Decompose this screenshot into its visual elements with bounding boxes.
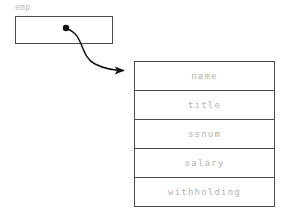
employee-record: name title ssnum salary withholding — [134, 61, 275, 207]
record-field-name: name — [135, 62, 274, 91]
record-field-withholding: withholding — [135, 178, 274, 207]
pointer-variable-box — [15, 16, 113, 44]
diagram-canvas: emp name title ssnum salary withholding — [0, 0, 289, 214]
pointer-variable-label: emp — [15, 2, 30, 14]
record-field-ssnum: ssnum — [135, 120, 274, 149]
record-field-title: title — [135, 91, 274, 120]
record-field-salary: salary — [135, 149, 274, 178]
